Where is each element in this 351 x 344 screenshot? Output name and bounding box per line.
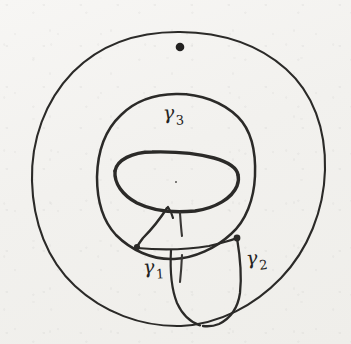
- gamma-2-glyph: γ: [245, 246, 259, 269]
- base-point: [176, 43, 185, 52]
- hidden-arc-upper: [180, 213, 182, 236]
- gamma-2-subscript: 2: [258, 257, 268, 273]
- points-group: [134, 43, 241, 250]
- outer-circle: [32, 32, 325, 326]
- label-gamma-2: γ2: [245, 247, 267, 268]
- gamma-1-subscript: 1: [155, 266, 164, 282]
- junction-gamma2: [234, 235, 241, 242]
- gamma-3-glyph: γ: [162, 101, 174, 124]
- label-gamma-1: γ1: [142, 256, 163, 276]
- gamma-1-glyph: γ: [142, 255, 155, 278]
- label-gamma-3: γ3: [163, 102, 184, 122]
- junction-gamma1: [134, 244, 140, 250]
- gamma-1-arc: [137, 208, 167, 247]
- torus-diagram-svg: [0, 0, 351, 344]
- gamma-2-arc: [203, 238, 241, 326]
- outer-circle-group: [32, 32, 325, 326]
- gamma-3-subscript: 3: [175, 112, 184, 127]
- gamma-1-chord: [137, 238, 237, 249]
- hole-ellipse-bottom: [115, 171, 239, 212]
- hole-ellipse-top: [115, 152, 238, 175]
- figure-root: γ3 γ1 γ2: [0, 0, 351, 344]
- center-dot: [175, 181, 177, 183]
- gamma-2-flank: [171, 250, 200, 325]
- gamma-1-group: [137, 208, 237, 249]
